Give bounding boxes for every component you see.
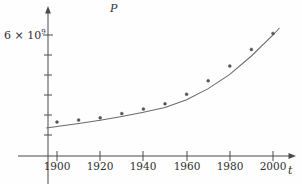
x-axis-tick-label-2000: 2000: [260, 160, 287, 172]
y-tick-label-exponent: 9: [41, 28, 45, 36]
x-axis-tick-label-1940: 1940: [130, 160, 157, 172]
data-point: [228, 65, 231, 68]
data-point: [77, 119, 80, 122]
x-axis-tick-label-1900: 1900: [44, 160, 71, 172]
data-point: [120, 112, 123, 115]
data-point-group: [56, 32, 275, 124]
x-axis-arrowhead: [289, 153, 297, 159]
x-axis-tick-label-1920: 1920: [87, 160, 114, 172]
x-axis-tick-label-1960: 1960: [174, 160, 201, 172]
population-growth-chart: P t 6 × 109 1900 1920 1940 1960 1980 200…: [0, 0, 302, 184]
x-axis-label: t: [288, 164, 292, 177]
axes-group: [18, 6, 296, 184]
data-point: [99, 116, 102, 119]
data-point: [56, 121, 59, 124]
data-point: [142, 108, 145, 111]
y-axis-label: P: [110, 2, 117, 15]
y-axis-tick-label-6e9: 6 × 109: [4, 28, 46, 42]
data-point: [207, 79, 210, 82]
fitted-exponential-curve: [46, 28, 279, 128]
data-point: [272, 32, 275, 35]
data-point: [250, 48, 253, 51]
x-axis-tick-label-1980: 1980: [217, 160, 244, 172]
y-tick-label-mantissa: 6 × 10: [4, 29, 41, 42]
data-point: [185, 93, 188, 96]
data-point: [164, 102, 167, 105]
y-axis-arrowhead: [45, 6, 51, 14]
